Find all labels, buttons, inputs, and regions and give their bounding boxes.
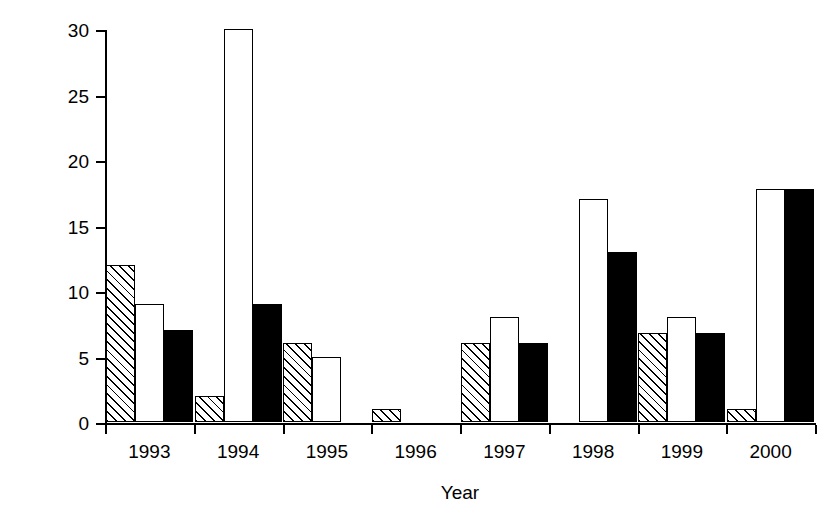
x-tick-label: 1996 xyxy=(373,442,459,461)
bar-2000-white xyxy=(756,189,785,422)
bar-1994-hatched xyxy=(195,396,224,422)
bar-2000-black xyxy=(785,189,814,422)
x-tick-mark xyxy=(460,425,462,434)
bar-1997-hatched xyxy=(461,343,490,422)
bar-1994-black xyxy=(253,304,282,422)
x-tick-label: 2000 xyxy=(728,442,814,461)
bar-1999-white xyxy=(667,317,696,422)
y-tick-label: 15 xyxy=(47,218,89,237)
x-tick-label: 1993 xyxy=(106,442,192,461)
y-tick-label: 5 xyxy=(47,349,89,368)
x-tick-mark xyxy=(105,425,107,434)
bar-1999-hatched xyxy=(638,333,667,422)
y-tick-mark xyxy=(96,161,105,163)
y-tick-label: 20 xyxy=(47,152,89,171)
bar-1996-hatched xyxy=(372,409,401,422)
x-tick-label: 1995 xyxy=(284,442,370,461)
bar-1995-white xyxy=(312,357,341,423)
x-tick-label: 1998 xyxy=(550,442,636,461)
y-tick-mark xyxy=(96,358,105,360)
y-tick-mark xyxy=(96,30,105,32)
x-tick-mark xyxy=(194,425,196,434)
x-tick-mark xyxy=(638,425,640,434)
bar-1993-hatched xyxy=(106,265,135,422)
y-tick-label: 30 xyxy=(47,21,89,40)
x-tick-mark xyxy=(549,425,551,434)
bar-1998-black xyxy=(608,252,637,422)
bar-chart-figure: Number of animals 051015202530 199319941… xyxy=(0,0,835,517)
x-tick-label: 1997 xyxy=(461,442,547,461)
bar-1997-black xyxy=(519,343,548,422)
x-axis-title: Year xyxy=(105,482,815,504)
x-tick-mark xyxy=(726,425,728,434)
y-tick-label: 10 xyxy=(47,283,89,302)
y-tick-mark xyxy=(96,96,105,98)
bar-1993-white xyxy=(135,304,164,422)
x-tick-label: 1994 xyxy=(195,442,281,461)
plot-area: 051015202530 199319941995199619971998199… xyxy=(105,30,815,424)
bar-1998-white xyxy=(579,199,608,422)
x-tick-label: 1999 xyxy=(639,442,725,461)
y-tick-label: 25 xyxy=(47,87,89,106)
y-tick-mark xyxy=(96,423,105,425)
y-tick-mark xyxy=(96,227,105,229)
x-tick-mark xyxy=(283,425,285,434)
bar-1997-white xyxy=(490,317,519,422)
bar-1993-black xyxy=(164,330,193,422)
x-tick-mark xyxy=(815,425,817,434)
y-tick-mark xyxy=(96,292,105,294)
bar-2000-hatched xyxy=(727,409,756,422)
bar-1999-black xyxy=(696,333,725,422)
bar-1994-white xyxy=(224,29,253,422)
bar-1995-hatched xyxy=(283,343,312,422)
y-tick-label: 0 xyxy=(47,414,89,433)
x-tick-mark xyxy=(371,425,373,434)
